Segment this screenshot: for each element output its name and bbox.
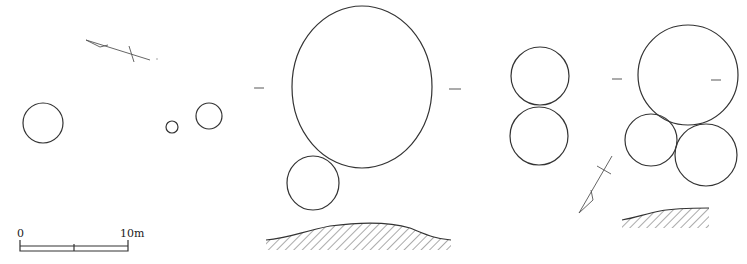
pit-circle (166, 121, 178, 133)
section-profile (622, 208, 709, 228)
small-mound-outline (675, 124, 737, 186)
middle-plan (254, 6, 461, 250)
small-mound-outline (625, 114, 677, 166)
section-profile (266, 223, 451, 250)
pit-circle (23, 103, 63, 143)
pit-circle (510, 107, 568, 165)
scale-bar (20, 240, 128, 251)
scale-label-end: 10m (120, 228, 144, 239)
right-plan (510, 25, 738, 228)
left-plan (23, 40, 222, 143)
large-mound-outline (638, 25, 738, 125)
north-arrow-icon (86, 40, 158, 62)
site-plan-drawing (0, 0, 747, 264)
large-mound-outline (292, 6, 432, 168)
pit-circle (511, 47, 569, 105)
pit-circle (196, 103, 222, 129)
north-arrow-icon (579, 156, 612, 213)
scale-label-start: 0 (17, 228, 24, 239)
small-mound-outline (287, 156, 339, 210)
